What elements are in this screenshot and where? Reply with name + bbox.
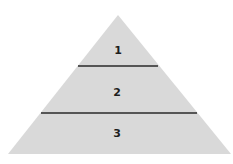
level-label-2: 2 — [113, 86, 121, 99]
level-label-1: 1 — [114, 44, 122, 57]
pyramid-svg: 1 2 3 — [0, 0, 233, 164]
pyramid-diagram: 1 2 3 — [0, 0, 233, 164]
level-label-3: 3 — [113, 127, 121, 140]
